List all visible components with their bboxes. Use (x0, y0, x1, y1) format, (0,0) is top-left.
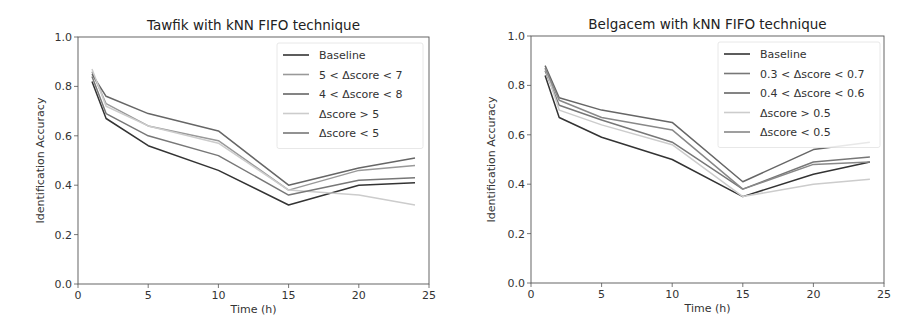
legend-label: Δscore > 0.5 (760, 107, 831, 120)
x-tick-label: 20 (806, 288, 820, 301)
y-tick-label: 1.0 (55, 31, 73, 44)
chart-belgacem: Belgacem with kNN FIFO technique05101520… (485, 16, 891, 315)
x-tick-label: 5 (145, 289, 152, 302)
legend-label: 0.3 < Δscore < 0.7 (760, 68, 865, 81)
legend-label: Baseline (760, 48, 807, 61)
chart-tawfik: Tawfik with kNN FIFO technique0510152025… (34, 17, 436, 316)
x-tick-label: 25 (422, 289, 436, 302)
figure-canvas: Tawfik with kNN FIFO technique0510152025… (0, 0, 924, 333)
x-tick-label: 0 (528, 288, 535, 301)
y-tick-label: 0.4 (55, 179, 73, 192)
x-tick-label: 15 (736, 288, 750, 301)
x-tick-label: 5 (598, 288, 605, 301)
y-tick-label: 0.8 (55, 80, 73, 93)
x-tick-label: 25 (877, 288, 891, 301)
x-axis-label: Time (h) (230, 303, 277, 316)
y-tick-label: 0.8 (508, 79, 526, 92)
x-axis-label: Time (h) (684, 302, 731, 315)
y-tick-label: 0.0 (508, 277, 526, 290)
y-tick-label: 1.0 (508, 30, 526, 43)
legend-label: 4 < Δscore < 8 (319, 88, 403, 101)
y-axis-label: Identification Accuracy (485, 96, 498, 222)
legend-label: Δscore > 5 (319, 108, 379, 121)
y-tick-label: 0.0 (55, 278, 73, 291)
y-tick-label: 0.2 (55, 229, 73, 242)
x-tick-label: 0 (75, 289, 82, 302)
chart-title: Belgacem with kNN FIFO technique (588, 16, 826, 32)
y-tick-label: 0.6 (508, 129, 526, 142)
legend-label: Δscore < 5 (319, 127, 379, 140)
y-tick-label: 0.6 (55, 130, 73, 143)
legend-label: 0.4 < Δscore < 0.6 (760, 87, 865, 100)
legend-label: Baseline (319, 49, 366, 62)
chart-title: Tawfik with kNN FIFO technique (146, 17, 360, 33)
y-tick-label: 0.2 (508, 228, 526, 241)
x-tick-label: 15 (282, 289, 296, 302)
y-tick-label: 0.4 (508, 178, 526, 191)
x-tick-label: 10 (665, 288, 679, 301)
x-tick-label: 10 (211, 289, 225, 302)
legend-label: 5 < Δscore < 7 (319, 69, 403, 82)
legend-label: Δscore < 0.5 (760, 126, 831, 139)
y-axis-label: Identification Accuracy (34, 97, 47, 223)
x-tick-label: 20 (352, 289, 366, 302)
